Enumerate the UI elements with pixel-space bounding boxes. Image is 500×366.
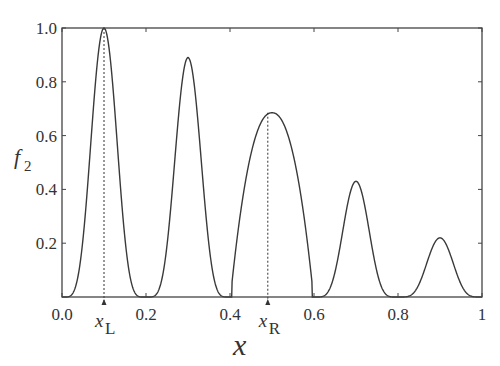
y-tick-label: 0.2 bbox=[36, 234, 57, 253]
annotation-sub-R: R bbox=[269, 319, 281, 338]
x-tick-label: 0.6 bbox=[303, 305, 324, 324]
annotation-label-R: x bbox=[258, 310, 268, 331]
ticks bbox=[62, 28, 482, 297]
arrow-icon bbox=[102, 299, 107, 305]
y-axis-title-main: f bbox=[14, 144, 23, 169]
f2-curve bbox=[62, 28, 482, 297]
x-tick-label: 0.2 bbox=[135, 305, 156, 324]
x-axis-title: x bbox=[232, 328, 247, 361]
y-tick-label: 1.0 bbox=[36, 19, 57, 38]
x-tick-label: 0.0 bbox=[51, 305, 72, 324]
y-tick-label: 0.4 bbox=[36, 180, 58, 199]
x-tick-label: 0.8 bbox=[387, 305, 408, 324]
f2-line bbox=[62, 28, 482, 297]
annotation-label-L: x bbox=[94, 310, 104, 331]
y-tick-label: 0.8 bbox=[36, 73, 57, 92]
annotations: xLxR bbox=[94, 28, 281, 338]
annotation-sub-L: L bbox=[105, 319, 115, 338]
arrow-icon bbox=[265, 299, 270, 305]
y-axis-title: f 2 bbox=[14, 144, 32, 174]
y-axis-title-sub: 2 bbox=[24, 158, 32, 174]
x-tick-label: 1 bbox=[478, 305, 487, 324]
plot-frame bbox=[62, 28, 482, 297]
x-tick-label: 0.4 bbox=[219, 305, 241, 324]
chart: xLxR 0.00.20.40.60.81 0.20.40.60.81.0 x … bbox=[0, 0, 500, 366]
y-tick-label: 0.6 bbox=[36, 127, 57, 146]
y-tick-labels: 0.20.40.60.81.0 bbox=[36, 19, 58, 253]
